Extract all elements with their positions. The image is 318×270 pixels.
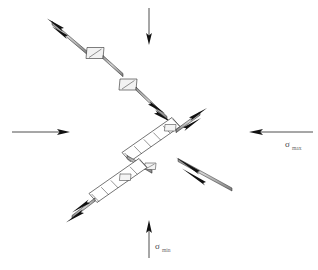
figure-root: σ max σ min [0,0,318,270]
jog-upper-1 [86,48,104,59]
sigma-min-subscript: min [162,247,171,253]
fault-diagram: σ max σ min [0,0,318,270]
sigma-max-symbol: σ [285,139,290,149]
sigma-min-symbol: σ [155,241,160,251]
sigma-max-subscript: max [292,145,302,151]
jog-upper-2 [119,79,137,90]
